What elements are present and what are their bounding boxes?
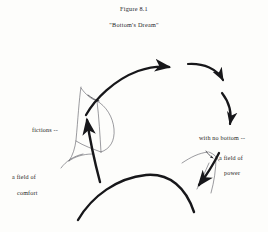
label-with-no-bottom: with no bottom --	[199, 133, 245, 143]
label-field-of-power-line2: power	[224, 168, 240, 178]
label-field-of-comfort-line2: comfort	[17, 188, 38, 198]
power-down-left-arrow	[199, 153, 219, 185]
right-side-arc-arrow	[222, 93, 231, 124]
label-field-of-power-line1: a field of	[219, 153, 243, 163]
figure-page: Figure 8.1 "Bottom's Dream"	[0, 0, 268, 232]
power-region-outline	[182, 152, 219, 193]
top-sweep-arrow	[86, 67, 169, 115]
upper-right-descending-arrow	[188, 64, 223, 80]
label-fictions: fictions --	[32, 125, 58, 135]
bottoms-dream-diagram	[0, 0, 268, 232]
label-field-of-comfort-line1: a field of	[12, 172, 36, 182]
bottom-arc	[78, 175, 194, 220]
